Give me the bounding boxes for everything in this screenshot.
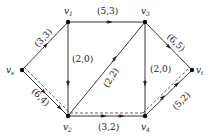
- edge-v2-v4: (3,2): [68, 113, 145, 132]
- edge-label: (3,2): [98, 122, 119, 132]
- edge-label: (2,2): [101, 66, 121, 89]
- edge-vs-v2: (6,4): [22, 67, 70, 116]
- edge-label: (5,2): [170, 90, 192, 112]
- edge-label: (3,3): [32, 27, 54, 49]
- edge-label: (2,0): [150, 64, 171, 74]
- svg-text:vt: vt: [196, 65, 204, 76]
- node-v4: v4: [141, 114, 150, 133]
- edge-label: (6,4): [30, 86, 52, 108]
- svg-text:v4: v4: [141, 122, 150, 133]
- edge-label: (6,5): [165, 32, 187, 54]
- edge-v1-v3: (5,3): [68, 6, 145, 22]
- edge-v1-v2: (2,0): [68, 22, 93, 116]
- edge-vs-v1: (3,3): [22, 22, 68, 70]
- edge-label: (5,3): [97, 6, 118, 16]
- node-v3: v3: [141, 6, 150, 24]
- node-v1: v1: [64, 6, 73, 24]
- flow-network-diagram: (3,3) (5,3) (2,0) (6,4) (2,2) (3,2) (2,0…: [0, 0, 212, 140]
- edge-v4-vt: (5,2): [143, 67, 193, 116]
- svg-text:vs: vs: [6, 65, 14, 76]
- edge-v2-v3: (2,2): [68, 22, 145, 116]
- node-vs: vs: [6, 65, 24, 76]
- svg-text:v1: v1: [64, 6, 73, 17]
- svg-text:v2: v2: [63, 122, 72, 133]
- svg-text:v3: v3: [141, 6, 150, 17]
- node-v2: v2: [63, 114, 72, 133]
- node-vt: vt: [190, 65, 204, 76]
- edge-v3-vt: (6,5): [145, 22, 192, 70]
- edge-label: (2,0): [72, 54, 93, 64]
